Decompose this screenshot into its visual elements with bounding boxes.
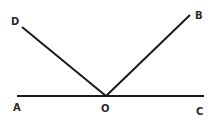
label-d: D: [11, 16, 19, 27]
angle-diagram: D B A O C: [0, 0, 213, 121]
label-b: B: [195, 10, 203, 21]
ray-od: [22, 27, 106, 96]
label-a: A: [13, 102, 21, 113]
label-c: C: [196, 106, 203, 117]
label-o: O: [101, 103, 110, 114]
ray-ob: [106, 15, 190, 96]
